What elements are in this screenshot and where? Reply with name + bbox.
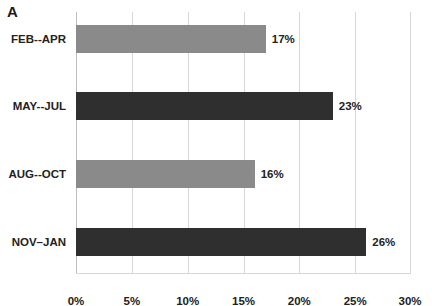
- bar-chart-figure: A FEB--APR MAY--JUL AUG--OCT NOV–JAN 17%…: [0, 0, 432, 306]
- bar-feb-apr: [76, 25, 266, 53]
- x-axis-baseline: [76, 273, 411, 274]
- bar-aug-oct: [76, 160, 255, 188]
- bar-value-nov-jan: 26%: [372, 228, 395, 256]
- category-label-nov-jan: NOV–JAN: [0, 228, 66, 256]
- xtick-label-10: 10%: [166, 295, 210, 306]
- xtick-label-20: 20%: [277, 295, 321, 306]
- panel-label: A: [7, 3, 18, 20]
- xtick-label-25: 25%: [333, 295, 377, 306]
- bar-nov-jan: [76, 228, 366, 256]
- category-label-may-jul: MAY--JUL: [0, 92, 66, 120]
- bar-may-jul: [76, 92, 333, 120]
- xtick-label-0: 0%: [54, 295, 98, 306]
- xtick-label-5: 5%: [110, 295, 154, 306]
- bar-value-aug-oct: 16%: [261, 160, 284, 188]
- plot-area: 17% 23% 16% 26% 0% 5% 10% 15% 20% 25% 30…: [76, 12, 411, 274]
- bar-value-may-jul: 23%: [339, 92, 362, 120]
- xtick-label-30: 30%: [388, 295, 432, 306]
- xtick-label-15: 15%: [222, 295, 266, 306]
- bar-value-feb-apr: 17%: [272, 25, 295, 53]
- category-label-feb-apr: FEB--APR: [0, 25, 66, 53]
- gridline-30-percent: [410, 12, 411, 274]
- category-label-aug-oct: AUG--OCT: [0, 160, 66, 188]
